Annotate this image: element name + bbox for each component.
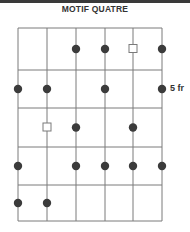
note-dot	[72, 123, 80, 131]
root-square	[43, 123, 51, 131]
note-dot	[43, 85, 51, 93]
note-dot	[158, 162, 166, 170]
note-dot	[101, 85, 109, 93]
note-dot	[158, 45, 166, 53]
fretboard-diagram	[0, 0, 190, 232]
note-dot	[129, 162, 137, 170]
note-dot	[158, 85, 166, 93]
note-dot	[72, 162, 80, 170]
note-dot	[101, 45, 109, 53]
fret-position-label: 5 fr	[170, 83, 184, 93]
note-dot	[14, 162, 22, 170]
note-dot	[14, 85, 22, 93]
note-dot	[101, 162, 109, 170]
root-square	[129, 45, 137, 53]
note-dot	[14, 199, 22, 207]
note-dot	[72, 45, 80, 53]
note-dot	[129, 123, 137, 131]
note-dot	[43, 199, 51, 207]
